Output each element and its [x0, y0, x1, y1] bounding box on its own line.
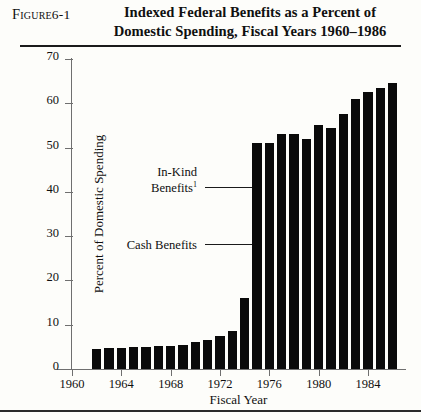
x-tick-label-1964: 1964 — [109, 378, 134, 391]
title-line-2: Domestic Spending, Fiscal Years 1960–198… — [95, 22, 405, 41]
title-line-1: Indexed Federal Benefits as a Percent of — [95, 3, 405, 22]
plot-area: Percent of Domestic Spending Fiscal Year… — [72, 59, 405, 369]
bar-1982 — [339, 114, 348, 369]
bar-1974 — [240, 298, 249, 369]
page-title: Indexed Federal Benefits as a Percent of… — [95, 3, 405, 42]
y-tick-70: 70 — [65, 59, 73, 60]
y-tick-20: 20 — [65, 280, 73, 281]
bar-1975 — [252, 143, 261, 369]
bar-1969 — [178, 345, 187, 369]
y-tick-10: 10 — [65, 325, 73, 326]
bar-1980 — [314, 125, 323, 369]
figure-label: Figure6-1 — [12, 6, 70, 23]
y-tick-60: 60 — [65, 103, 73, 104]
x-tick-1968 — [171, 369, 172, 376]
y-tick-label-10: 10 — [47, 316, 60, 329]
bar-1964 — [117, 348, 126, 369]
figure-label-prefix: Figure — [12, 6, 52, 22]
x-tick-1972 — [220, 369, 221, 376]
x-tick-label-1968: 1968 — [158, 378, 183, 391]
x-tick-label-1980: 1980 — [306, 378, 331, 391]
annotation-superscript: 1 — [193, 180, 197, 189]
bar-1984 — [363, 92, 372, 369]
y-tick-label-40: 40 — [47, 183, 60, 196]
x-tick-label-1976: 1976 — [257, 378, 282, 391]
y-tick-label-70: 70 — [47, 50, 60, 63]
bar-1977 — [277, 134, 286, 369]
bar-1979 — [302, 139, 311, 369]
title-divider — [20, 45, 401, 47]
bar-1962 — [92, 349, 101, 369]
y-tick-label-0: 0 — [53, 360, 59, 373]
x-tick-1964 — [121, 369, 122, 376]
y-tick-label-50: 50 — [47, 139, 60, 152]
y-tick-label-30: 30 — [47, 227, 60, 240]
figure-label-number: 6-1 — [52, 7, 71, 22]
bar-1976 — [265, 143, 274, 369]
bar-1970 — [191, 342, 200, 369]
annotation-in-kind-benefits: In-KindBenefits1 — [72, 164, 197, 196]
x-axis-line — [57, 369, 406, 370]
bottom-divider — [0, 410, 421, 412]
x-tick-1984 — [368, 369, 369, 376]
bar-1963 — [104, 348, 113, 369]
bar-1978 — [289, 134, 298, 369]
x-tick-label-1960: 1960 — [60, 378, 85, 391]
y-axis-title: Percent of Domestic Spending — [91, 135, 107, 294]
leader-line-cash-benefits — [205, 244, 252, 245]
bar-1983 — [351, 99, 360, 369]
bar-1967 — [154, 346, 163, 369]
y-tick-label-60: 60 — [47, 94, 60, 107]
bar-1985 — [376, 88, 385, 369]
y-tick-label-20: 20 — [47, 271, 60, 284]
bar-1971 — [203, 340, 212, 369]
bar-1981 — [326, 128, 335, 369]
figure-container: Figure6-1 Indexed Federal Benefits as a … — [0, 0, 421, 420]
x-axis-title: Fiscal Year — [72, 392, 405, 408]
bar-1968 — [166, 346, 175, 369]
annotation-line-2: Benefits1 — [72, 180, 197, 196]
bar-1966 — [141, 347, 150, 369]
x-tick-label-1972: 1972 — [208, 378, 233, 391]
bar-1986 — [388, 83, 397, 369]
bar-1965 — [129, 347, 138, 369]
leader-line-in-kind-benefits — [205, 187, 252, 188]
bar-1972 — [215, 336, 224, 369]
annotation-line-1: Cash Benefits — [72, 237, 197, 253]
x-tick-label-1984: 1984 — [356, 378, 381, 391]
bar-1973 — [228, 331, 237, 369]
y-tick-50: 50 — [65, 148, 73, 149]
x-tick-1960 — [72, 369, 73, 376]
annotation-cash-benefits: Cash Benefits — [72, 237, 197, 253]
x-tick-1980 — [319, 369, 320, 376]
x-tick-1976 — [269, 369, 270, 376]
annotation-line-1: In-Kind — [72, 164, 197, 180]
